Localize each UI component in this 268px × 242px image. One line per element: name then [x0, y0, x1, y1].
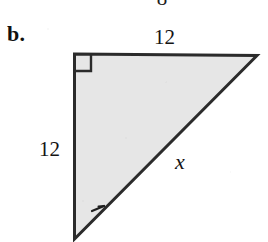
hypotenuse-label: x: [175, 150, 185, 174]
figure-canvas: 8 b. 12 12 x: [0, 0, 268, 242]
left-leg-label: 12: [39, 137, 60, 161]
top-leg-label: 12: [154, 25, 175, 49]
triangle-shape: [75, 54, 258, 239]
right-triangle-figure: [0, 0, 268, 242]
hypotenuse-tick-barb-icon: [99, 206, 105, 207]
